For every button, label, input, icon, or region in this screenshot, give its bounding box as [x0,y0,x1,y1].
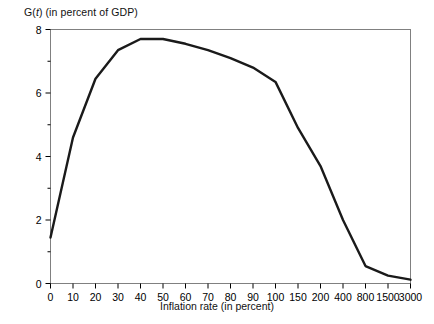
chart-figure: G(t) (in percent of GDP) 02468 010203040… [0,0,434,324]
plot-area: 02468 0102030405060708090100150200400800… [0,0,434,324]
y-axis-ticks [46,30,51,284]
y-tick-label: 2 [36,214,42,226]
y-tick-label: 6 [36,87,42,99]
x-axis-title: Inflation rate (in percent) [0,300,434,312]
y-tick-label: 0 [36,278,42,290]
y-tick-label: 8 [36,24,42,36]
data-series-line [51,39,411,280]
y-axis-tick-labels: 02468 [36,24,42,290]
y-tick-label: 4 [36,151,42,163]
series-line-gdp [51,39,411,280]
x-axis-ticks [51,284,411,289]
